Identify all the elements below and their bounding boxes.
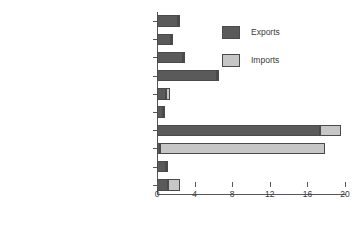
stacked-bar bbox=[157, 106, 165, 117]
bar-segment-exports bbox=[157, 70, 217, 81]
legend-label-imports: Imports bbox=[251, 55, 279, 65]
bar-segment-exports bbox=[157, 125, 320, 136]
chart-row: Food bbox=[157, 158, 345, 176]
x-axis-tick bbox=[195, 182, 196, 187]
x-axis-tick bbox=[270, 182, 271, 187]
x-axis-tick bbox=[157, 182, 158, 187]
x-axis-tick bbox=[232, 182, 233, 187]
x-axis-tick-label: 16 bbox=[303, 189, 312, 199]
stacked-bar bbox=[157, 88, 170, 99]
x-axis-tick-label: 12 bbox=[265, 189, 274, 199]
stacked-bar bbox=[157, 125, 341, 136]
bar-segment-imports bbox=[171, 34, 173, 45]
bar-segment-imports bbox=[320, 125, 342, 136]
bar-segment-exports bbox=[157, 15, 178, 26]
bar-segment-imports bbox=[160, 143, 325, 154]
stacked-bar bbox=[157, 70, 219, 81]
stacked-bar bbox=[157, 52, 185, 63]
bar-segment-exports bbox=[157, 34, 171, 45]
chart-row: Agricultural products bbox=[157, 176, 345, 194]
stacked-bar bbox=[157, 179, 181, 190]
chart-row: Fuels and mining products bbox=[157, 139, 345, 157]
x-axis-tick-label: 20 bbox=[340, 189, 349, 199]
legend-swatch-exports-icon bbox=[222, 26, 240, 39]
bar-segment-imports bbox=[166, 161, 168, 172]
stacked-bar bbox=[157, 143, 325, 154]
legend-label-exports: Exports bbox=[251, 27, 280, 37]
chart-row: Manufactures bbox=[157, 121, 345, 139]
bar-segment-imports bbox=[178, 15, 180, 26]
bar-segment-imports bbox=[166, 88, 170, 99]
x-axis-tick-label: 8 bbox=[230, 189, 235, 199]
x-axis-tick-label: 0 bbox=[155, 189, 160, 199]
bar-chart: Other manufacturesClothingTextilesMachin… bbox=[0, 0, 360, 236]
legend-item-imports: Imports bbox=[222, 50, 332, 70]
bar-segment-exports bbox=[157, 52, 183, 63]
x-axis-tick bbox=[345, 182, 346, 187]
stacked-bar bbox=[157, 15, 180, 26]
bar-segment-imports bbox=[217, 70, 219, 81]
stacked-bar bbox=[157, 34, 173, 45]
legend-item-exports: Exports bbox=[222, 22, 332, 42]
chart-row: Iron and steel bbox=[157, 103, 345, 121]
stacked-bar bbox=[157, 161, 168, 172]
bar-segment-exports bbox=[157, 161, 166, 172]
bar-segment-imports bbox=[168, 179, 180, 190]
x-axis-line bbox=[157, 194, 346, 195]
chart-legend: Exports Imports bbox=[222, 22, 332, 78]
bar-segment-exports bbox=[157, 88, 166, 99]
bar-segment-imports bbox=[163, 106, 166, 117]
chart-row: Chemicals bbox=[157, 85, 345, 103]
x-axis-tick-label: 4 bbox=[192, 189, 197, 199]
legend-swatch-imports-icon bbox=[222, 54, 240, 67]
bar-segment-imports bbox=[183, 52, 185, 63]
x-axis-tick bbox=[307, 182, 308, 187]
